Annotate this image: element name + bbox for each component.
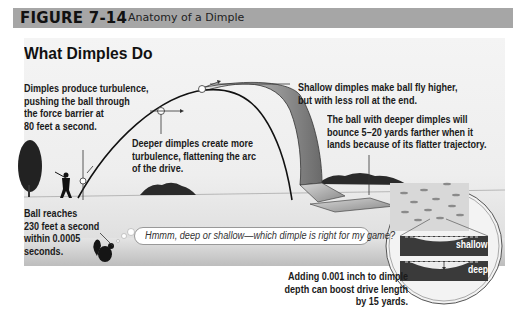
callout-bounce: The ball with deeper dimples will bounce… [327,113,486,151]
callout-line: Deeper dimples create more [132,137,256,150]
callout-line: 80 feet a second. [24,120,148,133]
callout-line: turbulence, flattening the arc [132,150,256,163]
callout-line: Ball reaches [24,207,99,220]
callout-line: Adding 0.001 inch to dimple [279,270,408,283]
callout-line: the force barrier at [24,107,148,120]
callout-deeper-dimples: Deeper dimples create more turbulence, f… [132,137,256,175]
thought-bubble: Hmmm, deep or shallow—which dimple is ri… [134,227,370,245]
callout-line: The ball with deeper dimples will [327,113,486,126]
callout-line: of the drive. [132,162,256,175]
callout-line: within 0.0005 [24,232,99,245]
inset-label-shallow: shallow [456,239,488,252]
shrub-icon [140,183,196,195]
callout-line: pushing the ball through [24,95,148,108]
callout-line: seconds. [24,245,99,258]
inset-label-deep: deep [468,264,488,277]
callout-line: by 15 yards. [279,295,408,308]
diagram-heading: What Dimples Do [24,44,153,64]
thought-bubble-text: Hmmm, deep or shallow—which dimple is ri… [145,230,395,241]
callout-depth-boost: Adding 0.001 inch to dimple depth can bo… [279,270,408,308]
golf-ball-icon [80,178,86,184]
callout-line: Dimples produce turbulence, [24,82,148,95]
callout-shallow-dimples: Shallow dimples make ball fly higher, bu… [298,81,458,106]
callout-line: bounce 5–20 yards farther when it [327,126,486,139]
callout-ball-reaches: Ball reaches 230 feet a second within 0.… [24,207,99,257]
tree-icon [18,140,42,197]
callout-line: 230 feet a second [24,220,99,233]
callout-line: Shallow dimples make ball fly higher, [298,81,458,94]
callout-turbulence: Dimples produce turbulence, pushing the … [24,82,148,132]
golf-ball-icon [150,108,184,115]
callout-line: depth can boost drive length [279,283,408,296]
golfer-icon [55,172,72,198]
callout-line: but with less roll at the end. [298,94,458,107]
callout-line: lands because of its flatter trajectory. [327,138,486,151]
